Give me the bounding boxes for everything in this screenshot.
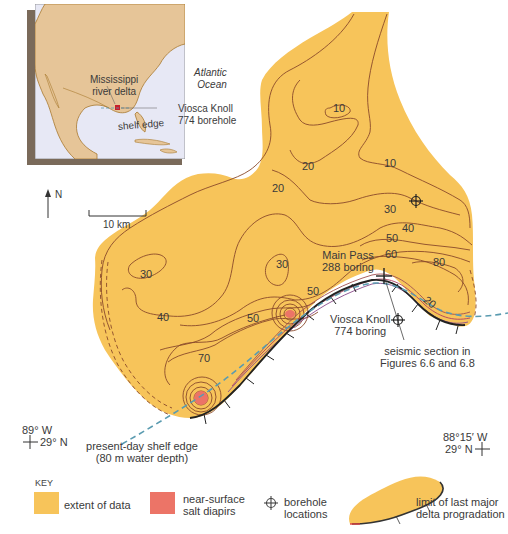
contour-label: 40 xyxy=(402,222,414,234)
contour-label: 20 xyxy=(302,160,314,172)
contour-label: 70 xyxy=(198,352,210,364)
coord-se-lon: 88°15′ W xyxy=(443,431,487,443)
key-swatch-data-extent xyxy=(34,492,59,514)
contour-label: 40 xyxy=(157,311,169,323)
coordinate-cross-se xyxy=(475,442,490,456)
coord-sw-lon: 89° W xyxy=(22,424,52,436)
contour-label: 10 xyxy=(384,157,396,169)
salt-diapir xyxy=(285,310,295,318)
key-title: KEY xyxy=(35,478,53,488)
scale-bar-label: 10 km xyxy=(103,219,130,231)
label-present-day-shelf-edge: present-day shelf edge(80 m water depth) xyxy=(82,440,202,464)
key-label-borehole-locations: boreholelocations xyxy=(284,496,327,520)
salt-diapir xyxy=(194,391,208,405)
key-label-data-extent: extent of data xyxy=(64,499,131,511)
contour-label: 30 xyxy=(140,268,152,280)
contour-label: 50 xyxy=(386,232,398,244)
north-arrow-icon xyxy=(45,189,51,218)
north-label: N xyxy=(55,189,62,201)
contour-label: 20 xyxy=(272,182,284,194)
key-swatch-salt-diapirs xyxy=(150,492,175,514)
contour-label: 30 xyxy=(384,203,396,215)
label-main-pass-boring: Main Pass288 boring xyxy=(322,249,374,273)
borehole-viosca-knoll xyxy=(391,313,405,327)
label-atlantic-ocean: AtlanticOcean xyxy=(194,67,227,91)
key-borehole-icon xyxy=(264,496,278,510)
coord-se-lat: 29° N xyxy=(445,443,473,455)
coordinate-cross-sw xyxy=(23,435,38,449)
label-mississippi-delta: Mississippiriver delta xyxy=(90,74,138,98)
label-viosca-knoll-boring: Viosca Knoll774 boring xyxy=(330,313,390,337)
contour-label: 80 xyxy=(433,256,445,268)
label-viosca-borehole-inset: Viosca Knoll774 borehole xyxy=(178,103,236,127)
contour-label: 10 xyxy=(333,102,345,114)
contour-label: 50 xyxy=(247,312,259,324)
viosca-knoll-marker xyxy=(115,105,120,110)
coord-sw-lat: 29° N xyxy=(40,436,68,448)
key-label-salt-diapirs: near-surfacesalt diapirs xyxy=(183,493,245,517)
scale-bar xyxy=(89,210,146,216)
contour-label: 50 xyxy=(307,285,319,297)
label-seismic-section: seismic section inFigures 6.6 and 6.8 xyxy=(380,345,475,369)
contour-label: 30 xyxy=(276,258,288,270)
key-label-delta-limit: limit of last majordelta progradation xyxy=(416,496,505,520)
contour-label: 60 xyxy=(385,248,397,260)
